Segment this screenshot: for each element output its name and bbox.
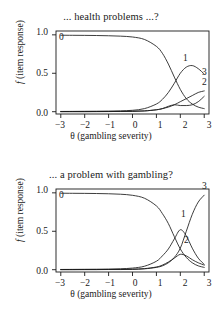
plot-box	[56, 189, 209, 272]
curve-category-3	[61, 195, 204, 269]
curve-category-0	[61, 193, 204, 267]
chart-panel-bottom: ... a problem with gambling? f (item res…	[0, 158, 222, 316]
curve-category-0	[61, 35, 204, 108]
plot-area-top	[0, 0, 222, 158]
curve-category-1	[61, 230, 204, 270]
plot-box	[56, 31, 209, 114]
curve-category-3	[61, 96, 204, 111]
chart-panel-top: ... health problems ...? f (item respons…	[0, 0, 222, 158]
curve-category-1	[61, 66, 204, 112]
curve-category-2	[61, 254, 204, 269]
plot-area-bottom	[0, 158, 222, 316]
